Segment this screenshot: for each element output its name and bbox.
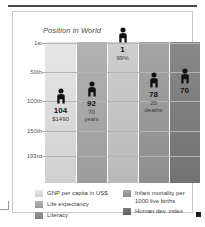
band-separator-2 xyxy=(107,42,108,183)
person-pictogram-icon xyxy=(86,81,97,98)
data-point-rank-4: 78 xyxy=(138,90,169,100)
chart-band-3 xyxy=(107,42,138,183)
legend-swatch-left-2 xyxy=(35,201,43,208)
legend-column-left: GNP per capita in US$Life expectancyLite… xyxy=(35,189,123,222)
corner-mark-bottom-left-vertical xyxy=(8,201,9,210)
axis-tick-193rd xyxy=(42,156,45,157)
legend-swatch-left-1 xyxy=(35,190,43,197)
chart-title: Position in World xyxy=(43,26,101,35)
legend-label-right-2: Human dev. index xyxy=(135,207,205,215)
legend-item-left-2[interactable]: Life expectancy xyxy=(35,200,123,209)
chart-band-5 xyxy=(169,42,200,183)
axis-label-100th: 100th xyxy=(27,98,42,104)
data-point-rank-2: 92 xyxy=(76,99,107,109)
axis-label-1st: 1st xyxy=(34,40,42,46)
data-point-sub-4-1: 20 xyxy=(138,100,169,107)
legend-swatch-left-3 xyxy=(35,212,43,219)
legend-item-left-1[interactable]: GNP per capita in US$ xyxy=(35,189,123,198)
gridline-150th xyxy=(45,131,200,132)
axis-tick-1st xyxy=(42,43,45,44)
person-pictogram-icon xyxy=(55,88,66,105)
person-pictogram-icon xyxy=(179,68,190,85)
legend-item-right-2[interactable]: Human dev. index xyxy=(123,207,205,216)
legend-item-right-1[interactable]: Infant mortality per1000 live births xyxy=(123,189,205,205)
axis-tick-50th xyxy=(42,72,45,73)
data-point-sub-4-2: deaths xyxy=(138,107,169,114)
data-point-rank-5: 70 xyxy=(169,86,200,96)
legend-label-left-3: Literacy xyxy=(47,211,123,219)
data-point-3: 199% xyxy=(107,27,138,62)
data-point-5: 70 xyxy=(169,68,200,96)
gridline-193rd xyxy=(45,156,200,157)
legend-label-right-1: Infant mortality per xyxy=(135,189,205,197)
legend-column-right: Infant mortality per1000 live birthsHuma… xyxy=(123,189,205,218)
axis-tick-150th xyxy=(42,131,45,132)
legend-label-left-1: GNP per capita in US$ xyxy=(47,189,123,197)
axis-label-50th: 50th xyxy=(30,69,42,75)
legend-label-left-2: Life expectancy xyxy=(47,200,123,208)
data-point-rank-1: 104 xyxy=(45,106,76,116)
axis-label-150th: 150th xyxy=(27,128,42,134)
chart-panel: Position in World 1st50th100th150th193rd… xyxy=(12,11,193,213)
axis-label-193rd: 193rd xyxy=(27,153,42,159)
top-divider-rule xyxy=(8,5,197,7)
legend-swatch-right-1 xyxy=(123,190,131,197)
data-point-4: 7820deaths xyxy=(138,72,169,114)
chart-legend: GNP per capita in US$Life expectancyLite… xyxy=(35,189,205,223)
data-point-1: 104$1490 xyxy=(45,88,76,123)
data-point-sub-1-1: $1490 xyxy=(45,116,76,123)
legend-label-right-1-line2: 1000 live births xyxy=(135,197,205,205)
person-pictogram-icon xyxy=(148,72,159,89)
data-point-sub-3-1: 99% xyxy=(107,55,138,62)
data-point-sub-2-1: 70 xyxy=(76,109,107,116)
legend-item-left-3[interactable]: Literacy xyxy=(35,211,123,220)
band-separator-4 xyxy=(169,42,170,183)
legend-swatch-right-2 xyxy=(123,208,131,215)
data-point-2: 9270years xyxy=(76,81,107,123)
data-point-rank-3: 1 xyxy=(107,45,138,55)
person-pictogram-icon xyxy=(117,27,128,44)
data-point-sub-2-2: years xyxy=(76,116,107,123)
plot-area: 1st50th100th150th193rd104$14909270years1… xyxy=(45,42,200,183)
